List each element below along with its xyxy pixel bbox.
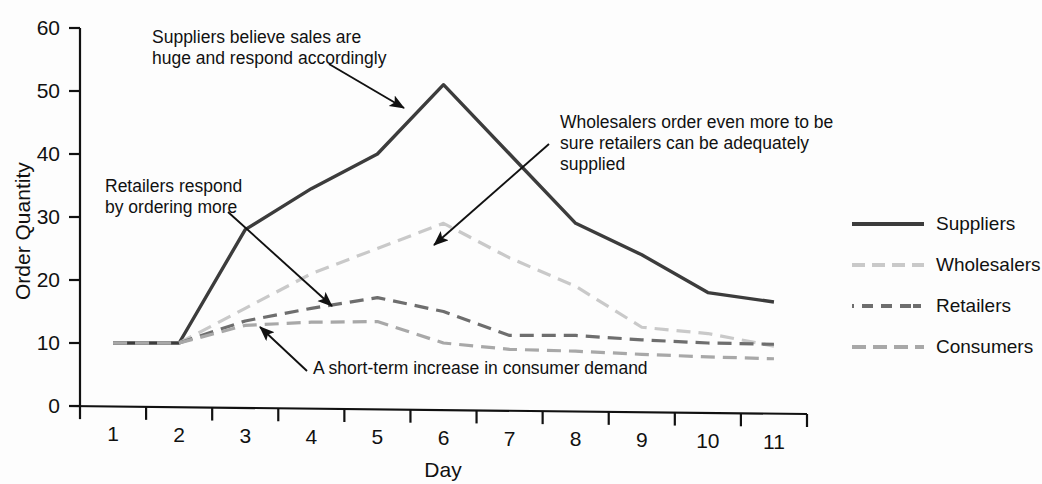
x-axis-tick-labels: 1234567891011 bbox=[107, 422, 785, 452]
y-tick-label: 10 bbox=[37, 331, 60, 354]
axes-group bbox=[69, 28, 807, 414]
x-tick-label: 5 bbox=[372, 425, 384, 448]
legend-label-wholesalers: Wholesalers bbox=[936, 254, 1041, 276]
legend-item-suppliers[interactable]: Suppliers bbox=[852, 212, 1015, 236]
arrow-suppliers bbox=[329, 64, 404, 108]
bullwhip-effect-chart: 0102030405060 1234567891011 Order Quanti… bbox=[0, 0, 1042, 484]
legend-item-consumers[interactable]: Consumers bbox=[852, 335, 1033, 359]
legend-swatch-suppliers bbox=[852, 219, 924, 229]
legend-swatch-consumers bbox=[852, 342, 924, 352]
y-tick-label: 20 bbox=[37, 268, 60, 291]
x-tick-label: 10 bbox=[696, 429, 719, 452]
legend-label-suppliers: Suppliers bbox=[936, 213, 1015, 235]
arrow-wholesalers bbox=[434, 144, 549, 245]
legend-label-retailers: Retailers bbox=[936, 295, 1011, 317]
annotation-wholesalers-text: Wholesalers order even more to be sure r… bbox=[560, 112, 833, 175]
y-tick-label: 30 bbox=[37, 205, 60, 228]
x-tick-label: 6 bbox=[438, 426, 450, 449]
series-line-retailers bbox=[113, 298, 774, 345]
y-axis-ticks bbox=[69, 28, 80, 406]
x-axis-title: Day bbox=[424, 458, 462, 481]
x-tick-label: 1 bbox=[107, 422, 119, 445]
x-axis-line bbox=[69, 406, 807, 414]
legend-label-consumers: Consumers bbox=[936, 336, 1033, 358]
annotation-retailers-text: Retailers respond by ordering more bbox=[105, 176, 242, 218]
x-tick-label: 8 bbox=[570, 427, 582, 450]
y-tick-label: 40 bbox=[37, 142, 60, 165]
x-tick-label: 3 bbox=[239, 424, 251, 447]
legend-swatch-retailers bbox=[852, 301, 924, 311]
y-axis-title: Order Quantity bbox=[11, 162, 34, 300]
x-tick-label: 2 bbox=[173, 423, 185, 446]
legend-item-wholesalers[interactable]: Wholesalers bbox=[852, 253, 1041, 277]
legend-swatch-wholesalers bbox=[852, 260, 924, 270]
legend-item-retailers[interactable]: Retailers bbox=[852, 294, 1011, 318]
x-tick-label: 11 bbox=[763, 430, 785, 453]
x-tick-label: 7 bbox=[504, 427, 516, 450]
y-tick-label: 50 bbox=[37, 79, 60, 102]
annotation-consumers-text: A short-term increase in consumer demand bbox=[313, 358, 648, 379]
y-tick-label: 0 bbox=[48, 394, 60, 417]
annotation-suppliers-text: Suppliers believe sales are huge and res… bbox=[152, 27, 386, 69]
chart-plot-area: 0102030405060 1234567891011 Order Quanti… bbox=[0, 0, 1042, 484]
y-axis-tick-labels: 0102030405060 bbox=[37, 16, 60, 417]
y-tick-label: 60 bbox=[37, 16, 60, 39]
x-tick-label: 4 bbox=[305, 425, 317, 448]
x-tick-label: 9 bbox=[636, 428, 648, 451]
arrow-consumers bbox=[260, 327, 307, 371]
